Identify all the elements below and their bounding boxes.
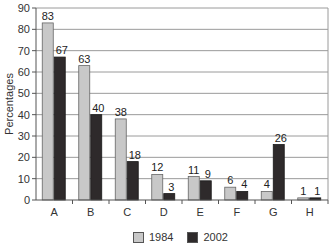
y-tick-label: 20 bbox=[18, 151, 30, 163]
y-tick-label: 90 bbox=[18, 2, 30, 14]
x-tick-label: D bbox=[160, 206, 168, 218]
legend-swatch-1984 bbox=[133, 232, 144, 243]
data-label: 40 bbox=[92, 102, 104, 114]
data-label: 3 bbox=[168, 181, 174, 193]
y-tick-label: 60 bbox=[18, 66, 30, 78]
y-axis-title: Percentages bbox=[3, 73, 15, 135]
bar-2002-C bbox=[127, 162, 138, 200]
x-tick-label: E bbox=[197, 206, 204, 218]
y-tick-label: 40 bbox=[18, 109, 30, 121]
bar-2002-A bbox=[54, 57, 65, 200]
data-label: 1 bbox=[314, 185, 320, 197]
data-label: 12 bbox=[151, 161, 163, 173]
y-tick-label: 50 bbox=[18, 87, 30, 99]
legend-swatch-2002 bbox=[187, 232, 198, 243]
data-label: 4 bbox=[264, 178, 270, 190]
x-tick-label: G bbox=[269, 206, 278, 218]
data-label: 6 bbox=[227, 174, 233, 186]
legend-label-1984: 1984 bbox=[149, 231, 173, 243]
y-tick-label: 30 bbox=[18, 130, 30, 142]
data-label: 9 bbox=[205, 168, 211, 180]
data-label: 4 bbox=[241, 178, 247, 190]
bar-chart: 0102030405060708090Percentages8367A6340B… bbox=[0, 0, 332, 252]
bar-1984-C bbox=[115, 119, 126, 200]
bar-2002-B bbox=[91, 115, 102, 200]
x-tick-label: C bbox=[123, 206, 131, 218]
data-label: 11 bbox=[188, 164, 199, 176]
data-label: 1 bbox=[300, 185, 306, 197]
bar-1984-E bbox=[188, 177, 199, 200]
data-label: 26 bbox=[275, 132, 287, 144]
data-label: 83 bbox=[42, 10, 54, 22]
bar-1984-G bbox=[261, 191, 272, 200]
bar-2002-F bbox=[237, 191, 248, 200]
y-tick-label: 70 bbox=[18, 45, 30, 57]
x-tick-label: A bbox=[51, 206, 59, 218]
legend-item-1984: 1984 bbox=[133, 231, 173, 243]
y-tick-label: 80 bbox=[18, 23, 30, 35]
x-tick-label: B bbox=[87, 206, 94, 218]
data-label: 63 bbox=[78, 53, 90, 65]
legend-item-2002: 2002 bbox=[187, 231, 227, 243]
data-label: 67 bbox=[56, 44, 68, 56]
x-tick-label: F bbox=[233, 206, 240, 218]
bar-2002-E bbox=[200, 181, 211, 200]
legend-label-2002: 2002 bbox=[203, 231, 227, 243]
bar-2002-D bbox=[164, 194, 175, 200]
bar-2002-G bbox=[273, 145, 284, 200]
bar-1984-F bbox=[225, 187, 236, 200]
y-tick-label: 10 bbox=[18, 173, 30, 185]
bar-1984-B bbox=[79, 66, 90, 200]
data-label: 38 bbox=[115, 106, 127, 118]
y-tick-label: 0 bbox=[24, 194, 30, 206]
x-tick-label: H bbox=[306, 206, 314, 218]
chart-legend: 1984 2002 bbox=[133, 231, 242, 243]
bar-1984-D bbox=[152, 174, 163, 200]
bar-1984-A bbox=[42, 23, 53, 200]
data-label: 18 bbox=[129, 149, 141, 161]
